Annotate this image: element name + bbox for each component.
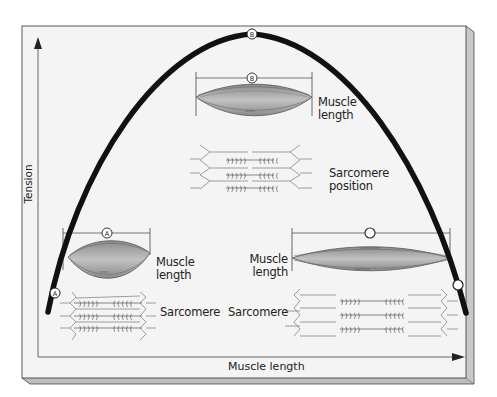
marker-c-small-icon (365, 228, 375, 238)
svg-text:))))): ))))) (226, 185, 247, 193)
svg-text:(((((: ((((( (384, 312, 405, 320)
sarcomere-c-label: Sarcomere (228, 306, 288, 319)
muscle-a-label: Muscle length (156, 256, 195, 282)
y-axis-label: Tension (22, 154, 34, 214)
svg-text:A: A (53, 290, 58, 298)
svg-text:))))): ))))) (78, 325, 99, 333)
svg-text:))))): ))))) (78, 313, 99, 321)
svg-text:))))): ))))) (340, 312, 361, 320)
svg-text:B: B (250, 31, 254, 39)
svg-text:(((((: ((((( (112, 313, 133, 321)
muscle-b-label-line2: length (318, 109, 357, 122)
muscle-c-label-line2: length (230, 266, 288, 279)
svg-text:(((((: ((((( (384, 298, 405, 306)
svg-text:))))): ))))) (340, 326, 361, 334)
muscle-c-label: Muscle length (230, 253, 288, 279)
sarcomere-b-label: Sarcomere position (329, 167, 389, 193)
length-tension-diagram: B )))))((((( )))))((((( )))))((((( (0, 0, 497, 397)
svg-text:(((((: ((((( (258, 172, 279, 180)
svg-text:(((((: ((((( (258, 157, 279, 165)
svg-text:))))): ))))) (226, 172, 247, 180)
svg-text:))))): ))))) (78, 300, 99, 308)
sarcomere-a-label: Sarcomere (160, 306, 220, 319)
svg-text:(((((: ((((( (112, 325, 133, 333)
sarcomere-b-label-line2: position (329, 180, 389, 193)
svg-text:(((((: ((((( (384, 326, 405, 334)
svg-text:B: B (250, 75, 254, 83)
svg-text:(((((: ((((( (258, 185, 279, 193)
diagram-canvas: B )))))((((( )))))((((( )))))((((( (0, 0, 497, 397)
marker-c-icon (453, 280, 463, 290)
svg-text:(((((: ((((( (112, 300, 133, 308)
svg-text:A: A (105, 230, 110, 238)
svg-text:))))): ))))) (226, 157, 247, 165)
muscle-b-label: Muscle length (318, 96, 357, 122)
muscle-a-label-line2: length (156, 269, 195, 282)
svg-text:))))): ))))) (340, 298, 361, 306)
x-axis-label: Muscle length (228, 360, 305, 373)
